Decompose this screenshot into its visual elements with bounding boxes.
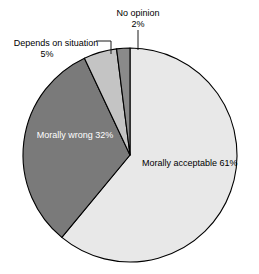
pie-label-morally-wrong-percent: 32% [95,130,113,140]
pie-label-morally-wrong: Morally wrong 32% [29,130,121,141]
pie-label-depends-on-situation-name: Depends on situation [14,38,99,48]
pie-label-depends-on-situation: Depends on situation 5% [2,38,110,60]
pie-label-morally-acceptable-name: Morally acceptable [142,158,217,168]
pie-label-no-opinion: No opinion 2% [104,8,172,30]
pie-chart: No opinion 2% Depends on situation 5% Mo… [0,0,259,274]
pie-label-morally-acceptable: Morally acceptable 61% [142,158,234,169]
pie-label-morally-acceptable-percent: 61% [220,158,238,168]
pie-label-no-opinion-name: No opinion [116,8,159,18]
pie-label-no-opinion-percent: 2% [104,19,172,30]
pie-label-morally-wrong-name: Morally wrong [37,130,93,140]
pie-label-depends-on-situation-percent: 5% [2,49,92,60]
